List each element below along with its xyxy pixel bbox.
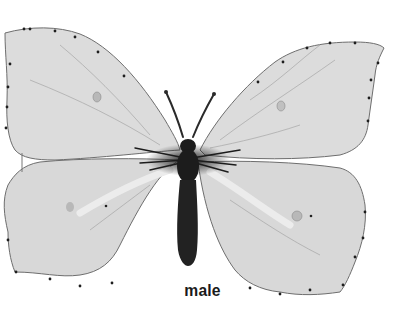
right-forewing <box>200 42 384 159</box>
right-forewing-spot <box>277 101 285 111</box>
abdomen <box>177 180 198 266</box>
hindwing-dot <box>105 205 108 208</box>
right-hindwing-spot <box>292 211 302 221</box>
hindwing-dot <box>310 215 313 218</box>
butterfly-illustration <box>0 0 405 322</box>
left-forewing-spot <box>93 92 101 102</box>
left-hindwing-spot <box>66 202 74 212</box>
thorax <box>177 149 199 183</box>
left-forewing <box>5 28 180 160</box>
figure-caption: male <box>16 281 389 301</box>
butterfly-figure: male <box>0 0 405 322</box>
